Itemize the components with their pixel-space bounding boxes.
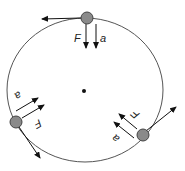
center-point (82, 89, 86, 93)
object-top: F a (42, 12, 106, 48)
ball-right (137, 129, 149, 141)
force-label-right: F (128, 107, 142, 121)
circular-motion-diagram: F a a F F a (0, 0, 185, 171)
accel-label-top: a (100, 32, 106, 44)
object-right: F a (109, 107, 176, 145)
ball-left (10, 116, 22, 128)
force-label-top: F (74, 32, 82, 44)
ball-top (81, 12, 93, 24)
velocity-arrow-left (19, 127, 40, 158)
velocity-arrow-right (146, 107, 176, 131)
force-label-left: F (31, 117, 44, 131)
accel-label-left: a (13, 89, 24, 102)
accel-label-right: a (109, 132, 121, 145)
force-arrow-left (22, 105, 44, 118)
